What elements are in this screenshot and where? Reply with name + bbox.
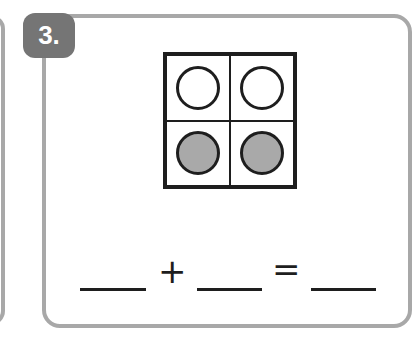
grid-cell — [166, 121, 230, 187]
answer-blank-3[interactable] — [311, 288, 376, 291]
problem-number-badge: 3. — [23, 13, 75, 58]
grid-cell — [230, 121, 294, 187]
answer-blank-2[interactable] — [197, 288, 262, 291]
counter-grid — [163, 52, 297, 189]
empty-circle-icon — [176, 66, 220, 110]
grid-cell — [166, 55, 230, 121]
plus-sign: + — [158, 254, 187, 288]
empty-circle-icon — [240, 66, 284, 110]
filled-circle-icon — [176, 131, 220, 175]
previous-problem-card-edge — [0, 15, 5, 325]
filled-circle-icon — [240, 131, 284, 175]
equals-sign: = — [272, 252, 301, 286]
answer-blank-1[interactable] — [80, 288, 146, 291]
grid-cell — [230, 55, 294, 121]
